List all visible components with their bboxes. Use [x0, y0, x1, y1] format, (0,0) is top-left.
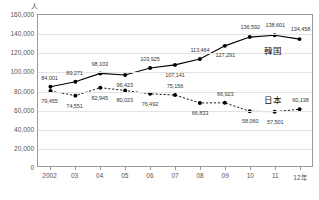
data-point-label: 96,423	[117, 82, 134, 88]
data-point-label: 66,833	[192, 110, 209, 116]
data-point-label: 134,458	[291, 26, 311, 32]
data-point-marker	[123, 73, 127, 77]
x-axis-tick-label: 12年	[293, 172, 307, 182]
x-axis-tick-label: 10	[247, 172, 254, 179]
data-point-label: 113,464	[191, 47, 210, 53]
y-axis-tick-label: 80,000	[14, 87, 34, 94]
data-point-marker	[148, 66, 152, 70]
gridline	[38, 34, 312, 35]
line-chart: 人 020,00040,00060,00080,000100,000120,00…	[0, 0, 319, 200]
y-axis-tick-label: 0	[30, 164, 34, 171]
data-point-marker	[223, 101, 227, 105]
plot-area	[37, 14, 313, 167]
data-point-marker	[198, 101, 202, 105]
series-name-label: 日本	[264, 93, 282, 105]
x-axis-tick-label: 11	[272, 172, 279, 179]
y-axis-tick-label: 20,000	[14, 144, 34, 151]
data-point-marker	[298, 37, 302, 41]
y-axis-tick-label: 120,000	[11, 49, 35, 56]
data-point-label: 74,551	[66, 103, 83, 109]
x-axis-tick-label: 03	[71, 172, 78, 179]
x-axis-tick-label: 07	[171, 172, 178, 179]
data-point-label: 98,103	[91, 61, 108, 67]
gridline	[38, 130, 312, 131]
data-point-label: 76,492	[142, 101, 159, 107]
x-axis-tick-mark	[200, 167, 201, 170]
x-axis: 200203040506070809101112年	[37, 167, 313, 193]
data-point-label: 80,023	[117, 97, 134, 103]
data-point-label: 79,455	[41, 98, 58, 104]
data-point-label: 58,060	[242, 118, 259, 124]
y-axis-tick-label: 100,000	[11, 68, 35, 75]
data-point-marker	[173, 63, 177, 67]
x-axis-tick-mark	[300, 167, 301, 170]
y-axis: 020,00040,00060,00080,000100,000120,0001…	[0, 0, 34, 200]
data-point-label: 127,291	[215, 52, 235, 58]
data-point-marker	[223, 44, 227, 48]
data-point-label: 84,001	[41, 75, 58, 81]
data-point-marker	[98, 86, 102, 90]
x-axis-tick-mark	[50, 167, 51, 170]
x-axis-tick-mark	[150, 167, 151, 170]
x-axis-tick-mark	[225, 167, 226, 170]
data-point-label: 60,138	[292, 97, 309, 103]
data-point-marker	[48, 85, 52, 89]
data-point-label: 66,923	[217, 91, 234, 97]
data-point-label: 82,945	[91, 95, 108, 101]
x-axis-tick-mark	[250, 167, 251, 170]
data-point-label: 103,925	[140, 56, 160, 62]
data-point-label: 136,592	[241, 24, 261, 30]
y-axis-tick-label: 40,000	[14, 125, 34, 132]
data-point-label: 75,156	[167, 83, 184, 89]
x-axis-tick-mark	[75, 167, 76, 170]
x-axis-tick-mark	[125, 167, 126, 170]
data-point-label: 138,601	[266, 22, 286, 28]
x-axis-tick-label: 05	[121, 172, 128, 179]
x-axis-tick-mark	[175, 167, 176, 170]
x-axis-tick-label: 04	[96, 172, 103, 179]
y-axis-tick-label: 160,000	[11, 11, 35, 18]
gridline	[38, 111, 312, 112]
series-line-1	[50, 35, 299, 87]
data-point-label: 57,501	[267, 119, 284, 125]
x-axis-tick-label: 06	[146, 172, 153, 179]
data-point-marker	[248, 35, 252, 39]
series-layer	[38, 15, 312, 166]
series-name-label: 韓国	[264, 44, 282, 56]
x-axis-tick-mark	[275, 167, 276, 170]
x-axis-tick-label: 2002	[42, 172, 56, 179]
data-point-marker	[198, 57, 202, 61]
y-axis-tick-label: 60,000	[14, 106, 34, 113]
gridline	[38, 149, 312, 150]
data-point-marker	[173, 93, 177, 97]
data-point-marker	[73, 94, 77, 98]
data-point-label: 107,141	[165, 72, 185, 78]
x-axis-tick-mark	[100, 167, 101, 170]
data-point-label: 89,271	[66, 70, 83, 76]
data-point-marker	[73, 80, 77, 84]
x-axis-tick-label: 09	[222, 172, 229, 179]
y-axis-tick-label: 140,000	[11, 30, 35, 37]
x-axis-tick-label: 08	[196, 172, 203, 179]
